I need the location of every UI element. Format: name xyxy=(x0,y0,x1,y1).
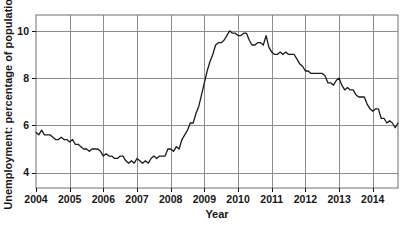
x-tick-label: 2011 xyxy=(260,193,283,205)
x-tick-marks xyxy=(37,188,374,192)
x-tick-label: 2012 xyxy=(294,193,318,205)
y-tick-label: 10 xyxy=(17,25,29,37)
x-tick-label: 2009 xyxy=(193,193,217,205)
y-tick-label: 4 xyxy=(23,166,29,178)
y-tick-label: 8 xyxy=(23,72,29,84)
unemployment-line-chart: 46810 2004200520062007200820092010201120… xyxy=(0,0,403,226)
y-axis-title: Unemployment: percentage of population xyxy=(2,0,14,210)
plot-background xyxy=(36,15,398,188)
x-tick-label: 2007 xyxy=(125,193,149,205)
chart-figure: 46810 2004200520062007200820092010201120… xyxy=(0,0,403,226)
x-tick-label: 2014 xyxy=(361,193,385,205)
x-tick-label: 2004 xyxy=(24,193,48,205)
y-tick-labels: 46810 xyxy=(17,25,29,179)
x-tick-label: 2010 xyxy=(226,193,250,205)
x-tick-label: 2006 xyxy=(92,193,116,205)
y-tick-marks xyxy=(32,32,36,174)
y-tick-label: 6 xyxy=(23,119,29,131)
x-tick-label: 2013 xyxy=(327,193,351,205)
x-axis-title: Year xyxy=(205,208,229,220)
x-tick-label: 2008 xyxy=(159,193,183,205)
x-tick-label: 2005 xyxy=(58,193,82,205)
x-tick-labels: 2004200520062007200820092010201120122013… xyxy=(24,193,384,205)
